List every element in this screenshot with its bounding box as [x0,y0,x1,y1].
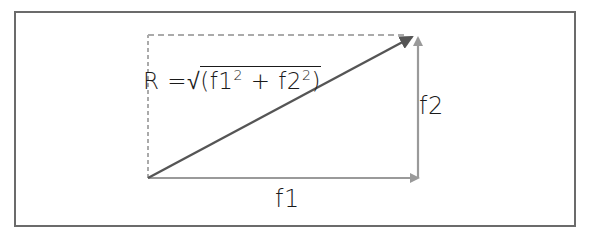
formula-exp-1: 2 [233,67,242,83]
resultant-formula: R =√(f12 + f22) [143,61,321,95]
formula-radicand: (f12 + f22) [200,66,321,94]
vector-resultant-arrow [148,37,412,178]
label-f1: f1 [275,185,300,213]
formula-term-f1: (f1 [200,68,233,94]
formula-term-f2: + f2 [243,68,302,94]
formula-close: ) [311,68,320,94]
formula-lhs: R [143,68,159,94]
formula-equals: = [167,68,187,94]
label-f2: f2 [419,92,444,120]
formula-exp-2: 2 [302,67,311,83]
sqrt-icon: √ [187,68,200,94]
